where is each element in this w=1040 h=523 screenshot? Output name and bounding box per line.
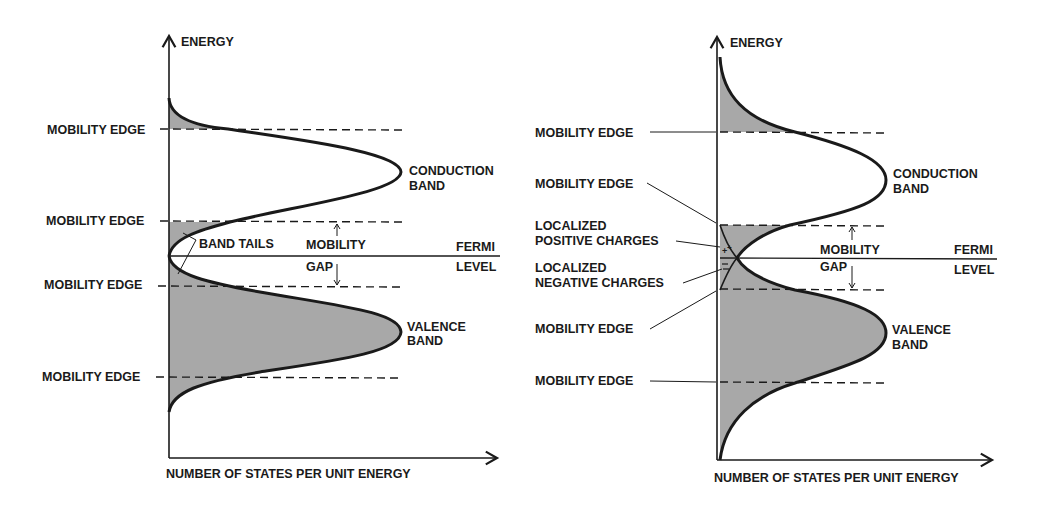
localized-negative-label-1: LOCALIZED <box>535 261 607 275</box>
fermi-label-2: LEVEL <box>954 263 995 277</box>
mobility-gap-label-1: MOBILITY <box>820 243 880 257</box>
fermi-label-1: FERMI <box>954 243 993 257</box>
fermi-level-line <box>720 258 997 259</box>
x-axis-label: NUMBER OF STATES PER UNIT ENERGY <box>714 471 959 485</box>
mobility-edge-label-4: MOBILITY EDGE <box>535 374 633 388</box>
band-diagrams: ENERGY NUMBER OF STATES PER UNIT ENERGY … <box>0 0 1040 523</box>
mobility-edge-label-1: MOBILITY EDGE <box>47 123 145 137</box>
localized-positive-label-2: POSITIVE CHARGES <box>535 234 659 248</box>
y-axis-label: ENERGY <box>181 35 234 49</box>
mobility-gap-label-2: GAP <box>306 260 333 274</box>
valence-band-label-1: VALENCE <box>407 320 466 334</box>
x-axis-label: NUMBER OF STATES PER UNIT ENERGY <box>166 467 411 481</box>
mobility-gap-label-1: MOBILITY <box>306 238 366 252</box>
pointer-mobility-edge-2 <box>647 183 716 223</box>
pointer-mobility-edge-4 <box>650 381 716 382</box>
mobility-edge-label-2: MOBILITY EDGE <box>46 214 144 228</box>
localized-positive-label-1: LOCALIZED <box>535 219 607 233</box>
conduction-band-curve <box>169 98 401 256</box>
valence-band-label-2: BAND <box>407 334 443 348</box>
mobility-edge-label-3: MOBILITY EDGE <box>44 278 142 292</box>
mobility-edge-label-1: MOBILITY EDGE <box>535 126 633 140</box>
valence-band-label-1: VALENCE <box>892 323 951 337</box>
pointer-positive-charges <box>676 241 720 247</box>
conduction-band-label-2: BAND <box>409 179 445 193</box>
mobility-edge-line-1 <box>160 129 402 130</box>
conduction-band-label-1: CONDUCTION <box>893 167 978 181</box>
mobility-edge-label-4: MOBILITY EDGE <box>42 370 140 384</box>
conduction-band-label-1: CONDUCTION <box>409 164 494 178</box>
pointer-mobility-edge-3 <box>650 291 716 329</box>
mobility-edge-line-2 <box>160 221 402 222</box>
fermi-label-2: LEVEL <box>456 260 497 274</box>
right-diagram: + + ENERGY NUMBER OF STATES PER UNIT ENE… <box>535 36 997 485</box>
mobility-gap-label-2: GAP <box>820 260 847 274</box>
mobility-edge-label-2: MOBILITY EDGE <box>535 177 633 191</box>
mobility-edge-label-3: MOBILITY EDGE <box>535 322 633 336</box>
conduction-band-label-2: BAND <box>893 182 929 196</box>
valence-band-label-2: BAND <box>892 338 928 352</box>
left-diagram: ENERGY NUMBER OF STATES PER UNIT ENERGY … <box>42 35 500 481</box>
positive-charge-marks-2: + <box>727 243 732 252</box>
mobility-edge-line-1 <box>720 132 885 133</box>
y-axis-label: ENERGY <box>730 36 783 50</box>
band-tails-label: BAND TAILS <box>199 237 274 251</box>
pointer-negative-charges <box>683 269 722 283</box>
localized-negative-label-2: NEGATIVE CHARGES <box>535 276 664 290</box>
fermi-label-1: FERMI <box>456 240 495 254</box>
